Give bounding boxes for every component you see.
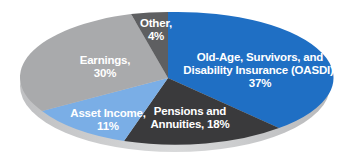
label-other: Other, 4%: [138, 17, 174, 43]
label-pensions-name: Pensions and: [148, 105, 232, 118]
label-earnings: Earnings, 30%: [70, 54, 140, 80]
label-oasdi-line2: Disability Insurance (OASDI),: [180, 64, 340, 77]
label-pensions-value: Annuities, 18%: [148, 118, 232, 131]
label-asset-income: Asset Income, 11%: [66, 107, 150, 133]
label-pensions: Pensions and Annuities, 18%: [148, 105, 232, 131]
label-earnings-value: 30%: [70, 67, 140, 80]
label-asset-income-value: 11%: [66, 120, 150, 133]
label-earnings-name: Earnings,: [70, 54, 140, 67]
label-oasdi-value: 37%: [180, 77, 340, 90]
label-asset-income-name: Asset Income,: [66, 107, 150, 120]
label-oasdi: Old-Age, Survivors, and Disability Insur…: [180, 51, 340, 90]
label-other-value: 4%: [138, 30, 174, 43]
label-other-name: Other,: [138, 17, 174, 30]
label-oasdi-line1: Old-Age, Survivors, and: [180, 51, 340, 64]
